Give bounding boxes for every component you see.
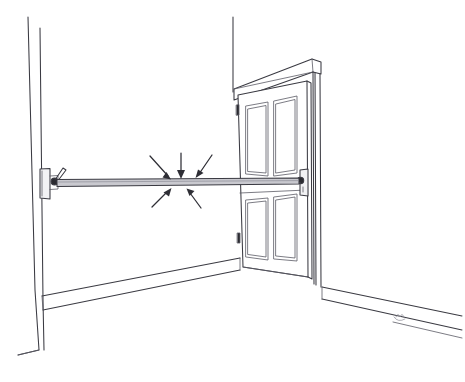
hinge-upper-icon [237, 105, 240, 116]
arrow-lower-left [152, 188, 172, 207]
arrow-upper-center-head [177, 170, 185, 179]
arrow-lower-right [187, 189, 202, 209]
arrow-lower-right-head [187, 189, 195, 197]
baseboard-right-top [322, 287, 462, 316]
left-wall-near-edge [18, 17, 39, 355]
illustration-canvas: Door security bar braced between wall an… [0, 0, 465, 382]
right-wall-jamb-outer [320, 74, 321, 287]
right-wall-corner-line [315, 70, 316, 285]
door-panel-bottom-right [274, 194, 297, 261]
anchor-plate [40, 169, 50, 200]
arrow-lower-right-shaft [190, 193, 201, 208]
floor-line-right [393, 322, 462, 338]
arrow-upper-left [150, 156, 171, 180]
door-jamb-inner-line [313, 72, 314, 284]
arrow-upper-center [177, 153, 185, 179]
left-wall-foot [18, 350, 39, 355]
arrow-upper-right [196, 155, 213, 178]
arrow-upper-right-head [196, 170, 204, 179]
door-jamb-right [313, 72, 314, 284]
door-panel-top-right [274, 96, 297, 176]
arrow-lower-left-shaft [152, 192, 167, 207]
right-wall [315, 70, 321, 287]
hinge-lower-icon [238, 233, 241, 243]
baseboard [42, 258, 462, 338]
door-panel-bottom-left [246, 198, 268, 260]
arrow-upper-right-shaft [199, 155, 212, 174]
arrow-lower-left-head [164, 188, 172, 197]
arrow-upper-left-shaft [150, 156, 168, 176]
line-drawing [0, 0, 465, 382]
door-panel-top-left [246, 102, 268, 176]
baseboard-right-bottom [322, 299, 462, 330]
door-assembly [234, 59, 321, 284]
